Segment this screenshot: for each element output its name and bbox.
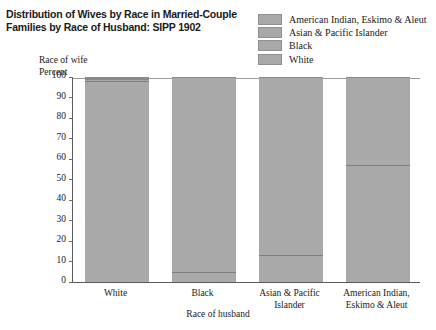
- y-axis-tick-label: 0: [26, 275, 66, 285]
- legend-swatch: [258, 40, 282, 51]
- legend-item-label: American Indian, Eskimo & Aleut: [289, 14, 426, 25]
- bar-segment[interactable]: [172, 77, 236, 272]
- x-axis-tick-label: Black: [159, 288, 246, 300]
- y-axis-tick-mark: [69, 261, 73, 262]
- y-axis-tick-mark: [69, 200, 73, 201]
- bar[interactable]: [85, 77, 149, 282]
- x-axis-tick-label-line: Islander: [246, 300, 333, 312]
- bar-segment[interactable]: [172, 272, 236, 282]
- bar[interactable]: [172, 77, 236, 282]
- legend-item: White: [258, 53, 426, 66]
- bar-segment[interactable]: [346, 165, 410, 282]
- plot-area: 0102030405060708090100: [72, 78, 420, 283]
- y-axis-tick-mark: [69, 179, 73, 180]
- y-axis-tick-mark: [69, 97, 73, 98]
- y-axis-tick-label: 30: [26, 214, 66, 224]
- bar[interactable]: [259, 77, 323, 282]
- bar-segment[interactable]: [259, 77, 323, 255]
- y-axis-tick-label: 90: [26, 91, 66, 101]
- x-axis-tick-label-line: Eskimo & Aleut: [333, 300, 420, 312]
- y-axis-tick-label: 100: [26, 70, 66, 80]
- y-axis-tick-mark: [69, 241, 73, 242]
- y-axis-tick-label: 20: [26, 234, 66, 244]
- chart-title-line-2: Families by Race of Husband: SIPP 1902: [6, 21, 274, 34]
- legend-swatch: [258, 54, 282, 65]
- chart-title-line-1: Distribution of Wives by Race in Married…: [6, 8, 274, 21]
- x-axis-tick-label: American Indian,Eskimo & Aleut: [333, 288, 420, 311]
- x-axis-tick-label-line: Black: [159, 288, 246, 300]
- x-axis-tick-label: Asian & PacificIslander: [246, 288, 333, 311]
- legend-item: American Indian, Eskimo & Aleut: [258, 13, 426, 26]
- bar-segment[interactable]: [85, 78, 149, 79]
- bar-segment[interactable]: [85, 77, 149, 78]
- y-axis-tick-label: 70: [26, 132, 66, 142]
- y-axis-tick-mark: [69, 159, 73, 160]
- y-axis-tick-mark: [69, 138, 73, 139]
- legend-item: Asian & Pacific Islander: [258, 26, 426, 39]
- x-axis-tick-label-line: American Indian,: [333, 288, 420, 300]
- legend: American Indian, Eskimo & AleutAsian & P…: [258, 13, 426, 66]
- bar-segment[interactable]: [346, 77, 410, 165]
- legend-axis-title: Race of wife: [39, 55, 88, 65]
- y-axis-tick-label: 10: [26, 255, 66, 265]
- x-axis-tick-label-line: White: [72, 288, 159, 300]
- chart-title: Distribution of Wives by Race in Married…: [6, 8, 274, 34]
- y-axis-tick-label: 80: [26, 111, 66, 121]
- y-axis-tick-mark: [69, 118, 73, 119]
- legend-item-label: White: [289, 54, 313, 65]
- legend-item: Black: [258, 39, 426, 52]
- legend-swatch: [258, 14, 282, 25]
- y-axis-tick-mark: [69, 282, 73, 283]
- legend-swatch: [258, 27, 282, 38]
- x-axis-tick-label-line: Asian & Pacific: [246, 288, 333, 300]
- y-axis-tick-label: 50: [26, 173, 66, 183]
- bar-segment[interactable]: [259, 255, 323, 282]
- y-axis-tick-mark: [69, 77, 73, 78]
- legend-item-label: Asian & Pacific Islander: [289, 27, 388, 38]
- bar-segment[interactable]: [85, 81, 149, 282]
- x-axis-tick-label: White: [72, 288, 159, 300]
- y-axis-tick-label: 40: [26, 193, 66, 203]
- bar[interactable]: [346, 77, 410, 282]
- legend-item-label: Black: [289, 40, 312, 51]
- y-axis-tick-label: 60: [26, 152, 66, 162]
- y-axis-tick-mark: [69, 220, 73, 221]
- bar-segment[interactable]: [85, 79, 149, 81]
